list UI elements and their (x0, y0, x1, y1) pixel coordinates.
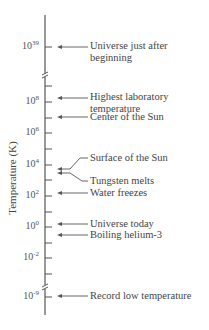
event-label-surface-of-the-sun: Surface of the Sun (90, 152, 168, 164)
event-label-record-low-temperature: Record low temperature (90, 290, 191, 302)
tick-label-base: 10 (23, 251, 33, 262)
tick-label-exponent: -9 (33, 289, 39, 297)
pointer-line (62, 158, 88, 169)
event-label-boiling-helium-3: Boiling helium-3 (90, 229, 162, 241)
tick-label-exponent: 6 (36, 125, 40, 133)
tick-label: 108 (9, 95, 39, 106)
event-label-line: Surface of the Sun (90, 152, 168, 164)
tick-label: 1039 (9, 40, 39, 51)
tick-label-exponent: 39 (32, 39, 39, 47)
event-label-line: Tungsten melts (90, 175, 154, 187)
event-label-line: Center of the Sun (90, 111, 164, 123)
event-label-center-of-the-sun: Center of the Sun (90, 111, 164, 123)
arrowhead-icon (57, 167, 62, 171)
arrowhead-icon (57, 115, 62, 119)
arrowhead-icon (57, 45, 62, 49)
tick-label-base: 10 (26, 126, 36, 137)
event-label-universe-just-after-beginning: Universe just afterbeginning (90, 40, 168, 64)
event-label-line: Record low temperature (90, 290, 191, 302)
tick-label-base: 10 (26, 158, 36, 169)
arrowhead-icon (57, 222, 62, 226)
pointer-line (62, 173, 88, 181)
event-label-line: Highest laboratory (90, 91, 168, 103)
temperature-scale-diagram: 103910810610410210010-210-9 Universe jus… (0, 0, 209, 330)
tick-label-base: 10 (26, 95, 36, 106)
tick-label-base: 10 (26, 189, 36, 200)
tick-label-base: 10 (23, 290, 33, 301)
arrowhead-icon (57, 233, 62, 237)
tick-label-base: 10 (26, 220, 36, 231)
tick-label-base: 10 (22, 40, 32, 51)
event-label-line: Boiling helium-3 (90, 229, 162, 241)
tick-label-exponent: 0 (36, 219, 40, 227)
y-axis-label: Temperature (K) (6, 128, 18, 228)
tick-label-exponent: -2 (33, 250, 39, 258)
event-label-line: Universe just after (90, 40, 168, 52)
tick-label-exponent: 4 (36, 157, 40, 165)
arrowhead-icon (57, 294, 62, 298)
event-label-water-freezes: Water freezes (90, 187, 147, 199)
event-label-line: Water freezes (90, 187, 147, 199)
tick-label: 10-9 (9, 290, 39, 301)
event-label-line: beginning (90, 52, 168, 64)
tick-label-exponent: 8 (36, 94, 40, 102)
tick-label: 10-2 (9, 251, 39, 262)
tick-label-exponent: 2 (36, 188, 40, 196)
event-label-tungsten-melts: Tungsten melts (90, 175, 154, 187)
arrowhead-icon (57, 171, 62, 175)
arrowhead-icon (57, 96, 62, 100)
arrowhead-icon (57, 191, 62, 195)
